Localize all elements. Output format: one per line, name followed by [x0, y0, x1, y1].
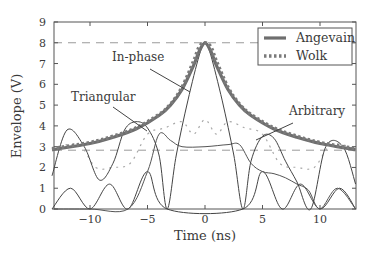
series-triangular [52, 120, 356, 170]
envelope-chart: −10−50510 0123456789 In-phase Triangular… [0, 0, 374, 265]
legend-label-wolk: Wolk [296, 48, 328, 63]
x-tick-label: −5 [139, 213, 155, 226]
y-tick-label: 5 [39, 99, 46, 112]
y-tick-label: 0 [39, 203, 46, 216]
y-axis-label: Envelope (V) [9, 74, 24, 159]
x-tick-label: 5 [259, 213, 266, 226]
y-tick-label: 8 [39, 37, 46, 50]
x-tick-label: 0 [202, 213, 209, 226]
y-tick-label: 7 [39, 58, 46, 71]
legend-label-angevain: Angevain [295, 30, 355, 45]
x-tick-label: −10 [78, 213, 101, 226]
series-in-phase [52, 43, 356, 210]
y-tick-label: 4 [39, 120, 46, 133]
annotation-triangular: Triangular [71, 90, 136, 104]
y-tick-label: 6 [39, 78, 46, 91]
annotation-in-phase: In-phase [112, 50, 164, 64]
y-tick-label: 2 [39, 161, 46, 174]
x-axis-label: Time (ns) [174, 228, 236, 243]
y-tick-label: 1 [39, 182, 46, 195]
y-tick-label: 9 [39, 16, 46, 29]
annotation-leader-triangular [113, 107, 147, 131]
x-tick-label: 10 [313, 213, 327, 226]
legend: Angevain Wolk [258, 28, 355, 65]
series-layer [52, 43, 356, 214]
annotation-arbitrary: Arbitrary [288, 104, 345, 118]
y-tick-label: 3 [39, 141, 46, 154]
annotation-leader-arbitrary [256, 123, 293, 140]
